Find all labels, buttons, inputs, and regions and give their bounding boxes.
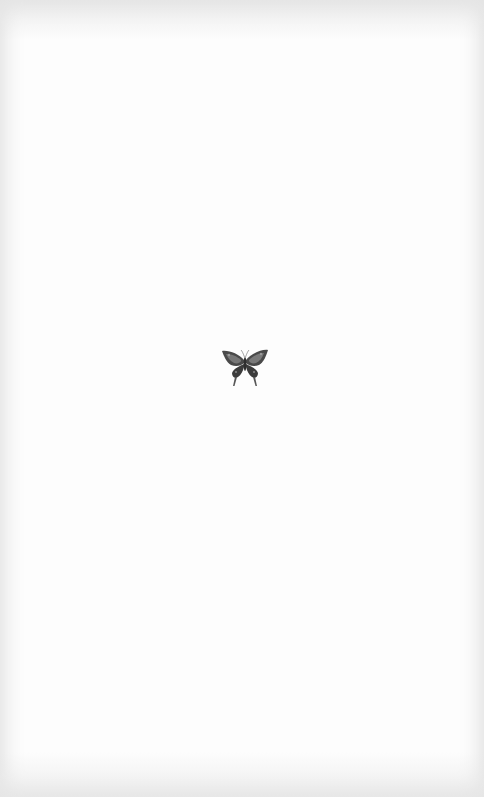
paper-background: [0, 0, 484, 797]
butterfly-icon: [221, 346, 269, 388]
